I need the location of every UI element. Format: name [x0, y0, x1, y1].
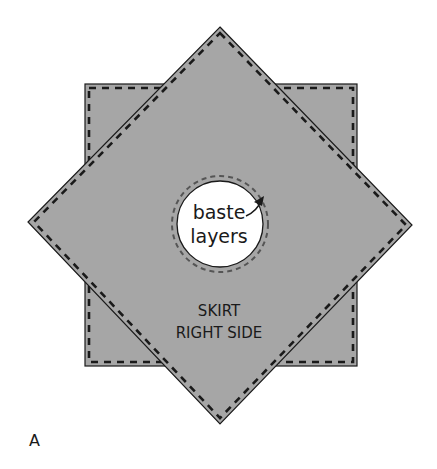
skirt-layers-diagram: baste layers SKIRT RIGHT SIDE A	[0, 0, 437, 469]
hole-label-line1: baste	[193, 201, 246, 223]
hole-label-line2: layers	[190, 225, 248, 247]
skirt-label-line1: SKIRT	[198, 302, 241, 320]
panel-label: A	[29, 431, 40, 450]
skirt-label-line2: RIGHT SIDE	[176, 324, 263, 342]
